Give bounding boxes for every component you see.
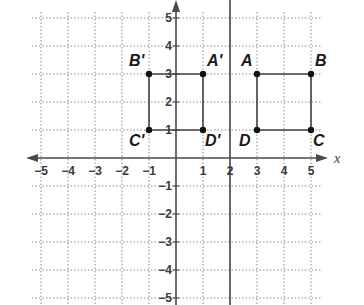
point-label: D: [239, 132, 251, 149]
x-tick-label: 3: [254, 164, 261, 178]
y-tick-label: −2: [158, 207, 172, 221]
point-B: [308, 71, 314, 77]
x-tick-label: 5: [308, 164, 315, 178]
x-tick-label: −2: [115, 164, 129, 178]
x-tick-label: 1: [200, 164, 207, 178]
point-A-prime: [200, 71, 206, 77]
point-label: B': [129, 52, 146, 69]
y-tick-label: −3: [158, 235, 172, 249]
y-axis-up-arrow-icon: [172, 0, 180, 12]
y-tick-label: 2: [165, 95, 172, 109]
x-axis-label: x: [333, 151, 341, 166]
point-label: D': [205, 132, 222, 149]
y-tick-label: 4: [165, 39, 172, 53]
point-label: A: [240, 52, 253, 69]
y-tick-label: −4: [158, 263, 172, 277]
x-tick-label: −5: [34, 164, 48, 178]
x-tick-label: 4: [281, 164, 288, 178]
x-axis-left-arrow-icon: [26, 154, 38, 162]
x-tick-label: −1: [142, 164, 156, 178]
coordinate-plane: x −5−4−3−2−11234554321−1−2−3−4−5 ABCDA'B…: [0, 0, 364, 305]
y-tick-label: 3: [165, 67, 172, 81]
point-label: C: [313, 132, 325, 149]
x-tick-label: −4: [61, 164, 75, 178]
x-tick-label: 2: [227, 164, 234, 178]
point-D: [254, 127, 260, 133]
point-B-prime: [146, 71, 152, 77]
point-label: B: [315, 52, 327, 69]
x-axis-right-arrow-icon: [316, 154, 328, 162]
point-A: [254, 71, 260, 77]
point-C-prime: [146, 127, 152, 133]
point-label: C': [129, 132, 146, 149]
y-tick-label: 5: [165, 11, 172, 25]
x-tick-label: −3: [88, 164, 102, 178]
y-tick-label: −1: [158, 179, 172, 193]
y-tick-label: −5: [158, 291, 172, 305]
point-label: A': [206, 52, 224, 69]
point-labels: ABCDA'B'C'D': [129, 52, 327, 149]
y-tick-label: 1: [165, 123, 172, 137]
